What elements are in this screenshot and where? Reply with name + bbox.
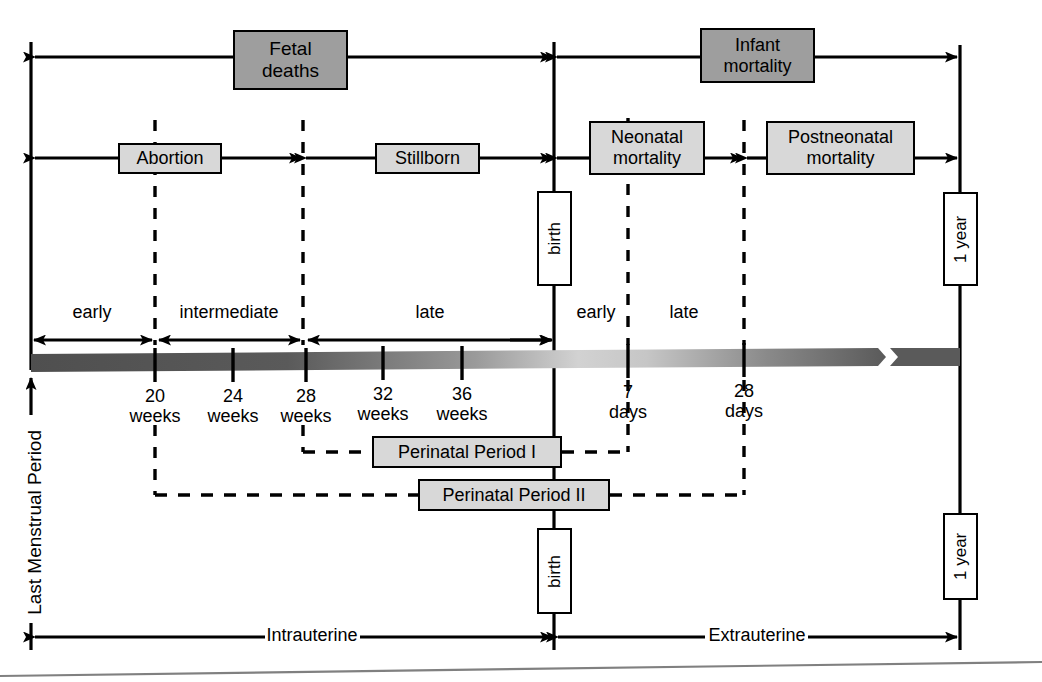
diagram-canvas: Fetal deaths Infant mortality Abortion S… [0,0,1042,682]
timeline-bar-left-segment [31,348,886,372]
box-one-year-upper[interactable]: 1 year [943,192,978,286]
box-birth-upper[interactable]: birth [537,191,572,286]
footer-label-extrauterine: Extrauterine [704,625,810,645]
stage-label-intermediate-prenatal: intermediate [162,302,296,322]
timeline-bar-right-segment [890,348,960,366]
box-abortion[interactable]: Abortion [118,143,222,174]
stage-label-late-prenatal: late [382,302,478,322]
tick-label-32-weeks: 32 weeks [338,384,428,424]
stage-label-late-neonatal: late [652,302,716,322]
box-fetal-deaths[interactable]: Fetal deaths [233,30,348,90]
diagram-vector-layer [0,0,1042,682]
box-neonatal-mortality[interactable]: Neonatal mortality [589,121,705,175]
box-perinatal-period-i[interactable]: Perinatal Period I [372,436,562,468]
gestation-timeline-bar [31,348,960,372]
stage-label-early-prenatal: early [55,302,129,322]
box-stillborn[interactable]: Stillborn [375,143,480,174]
footer-label-intrauterine: Intrauterine [262,625,362,645]
footer-rule [0,662,1042,676]
box-infant-mortality[interactable]: Infant mortality [700,28,815,83]
lmp-axis-label: Last Menstrual Period [24,430,46,615]
stage-label-early-neonatal: early [564,302,628,322]
tick-label-7-days: 7 days [583,382,673,422]
box-perinatal-period-ii[interactable]: Perinatal Period II [418,479,610,511]
tick-label-20-weeks: 20 weeks [110,386,200,426]
tick-label-28-days: 28 days [699,381,789,421]
box-birth-lower[interactable]: birth [537,528,572,614]
box-one-year-lower[interactable]: 1 year [943,513,978,600]
box-postneonatal-mortality[interactable]: Postneonatal mortality [766,121,915,175]
tick-label-36-weeks: 36 weeks [417,384,507,424]
